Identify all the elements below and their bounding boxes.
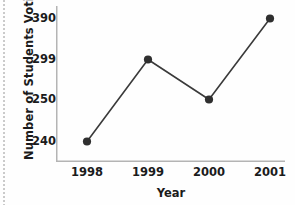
x-axis-tick-label: 2001 [244,167,295,179]
x-axis-tick-label: 1998 [61,167,113,179]
y-axis-tick-label: 390 [22,13,56,25]
x-axis-tick-label: 2000 [183,167,235,179]
data-point-2001 [266,14,274,22]
line-chart-svg [56,6,285,162]
axis-spine [57,6,285,161]
data-point-1998 [83,137,91,145]
series-line [87,19,270,142]
page-edge-artifact [3,0,5,205]
y-axis-tick-label: 240 [22,136,56,148]
data-point-2000 [205,95,213,103]
data-point-1999 [144,55,152,63]
chart-figure: Number of Students Voting 390 299 250 24… [0,0,295,205]
y-axis-tick-label: 250 [22,94,56,106]
x-axis-tick-label: 1999 [122,167,174,179]
plot-area [56,6,285,162]
y-axis-tick-label: 299 [22,54,56,66]
x-axis-title: Year [56,186,286,200]
